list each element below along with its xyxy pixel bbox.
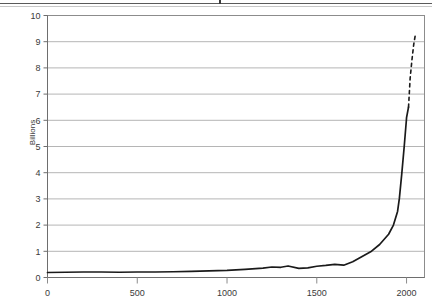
y-tick-label: 5 bbox=[35, 142, 40, 152]
series-line-projection bbox=[409, 34, 416, 107]
chart-figure: Billions 012345678910 0500100015002000 bbox=[0, 0, 432, 307]
x-tick-label: 1500 bbox=[307, 288, 327, 298]
y-tick-label: 1 bbox=[35, 247, 40, 257]
plot-area: 012345678910 0500100015002000 bbox=[0, 0, 432, 307]
y-tick-label: 9 bbox=[35, 37, 40, 47]
y-tick-label: 3 bbox=[35, 194, 40, 204]
y-tick-label: 0 bbox=[35, 273, 40, 283]
y-tick-label: 10 bbox=[30, 11, 40, 21]
gridlines bbox=[48, 42, 425, 252]
y-tick-label: 4 bbox=[35, 168, 40, 178]
y-tick-label: 2 bbox=[35, 220, 40, 230]
data-series bbox=[48, 34, 416, 273]
x-tick-label: 500 bbox=[130, 288, 145, 298]
y-tick-label: 8 bbox=[35, 63, 40, 73]
x-axis-ticks: 0500100015002000 bbox=[45, 278, 417, 298]
x-tick-label: 0 bbox=[45, 288, 50, 298]
y-tick-label: 7 bbox=[35, 89, 40, 99]
x-tick-label: 2000 bbox=[397, 288, 417, 298]
y-axis-ticks: 012345678910 bbox=[30, 11, 47, 283]
series-line-historical bbox=[48, 107, 409, 272]
x-tick-label: 1000 bbox=[217, 288, 237, 298]
y-tick-label: 6 bbox=[35, 116, 40, 126]
